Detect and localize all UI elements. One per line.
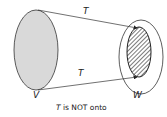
domain-label: V xyxy=(33,90,39,100)
arrow-bottom-label: T xyxy=(78,68,84,78)
caption: T is NOT onto xyxy=(56,103,107,112)
domain-set-v xyxy=(14,10,58,90)
codomain-label: W xyxy=(133,90,142,100)
not-onto-diagram: T T V W T is NOT onto xyxy=(0,0,167,117)
arrow-bottom xyxy=(38,77,137,90)
arrow-top-label: T xyxy=(83,6,89,16)
image-of-t xyxy=(127,27,151,77)
caption-text: is NOT onto xyxy=(61,103,107,112)
